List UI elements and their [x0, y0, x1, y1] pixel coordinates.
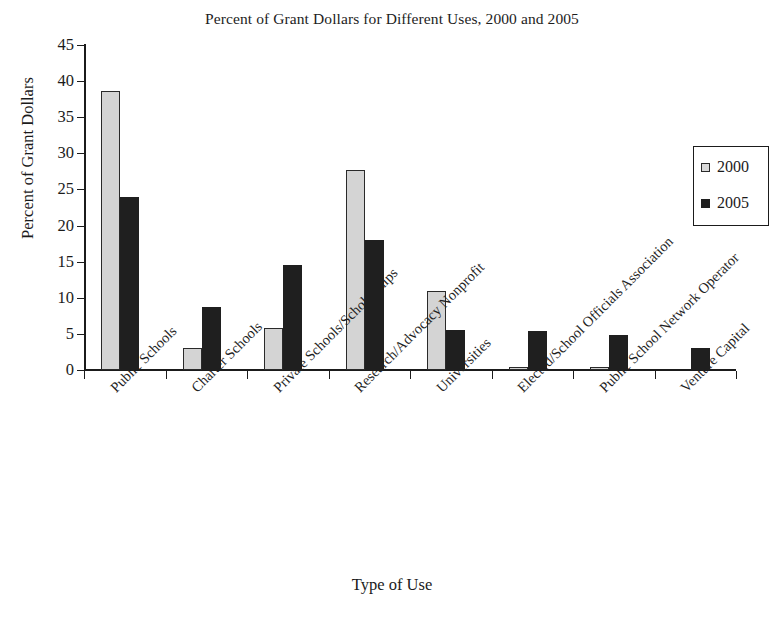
y-axis-tick [77, 81, 84, 82]
y-axis-tick [77, 370, 84, 371]
y-axis-tick-label: 15 [34, 254, 74, 271]
bar-2000-3[interactable] [346, 170, 365, 370]
y-axis-tick [77, 334, 84, 335]
y-axis-tick [77, 153, 84, 154]
y-axis-title: Percent of Grant Dollars [18, 48, 38, 268]
y-axis-tick [77, 298, 84, 299]
y-axis-tick-label: 25 [34, 181, 74, 198]
bar-2000-0[interactable] [101, 91, 120, 370]
bar-2000-2[interactable] [264, 328, 283, 370]
x-axis-tick [410, 371, 411, 379]
x-axis-title: Type of Use [0, 575, 784, 595]
y-axis-tick-label: 45 [34, 37, 74, 54]
x-axis-tick [573, 371, 574, 379]
y-axis-tick-label: 40 [34, 73, 74, 90]
y-axis-tick-label: 30 [34, 145, 74, 162]
y-axis-tick-label: 35 [34, 109, 74, 126]
x-axis-tick [247, 371, 248, 379]
bar-2000-6[interactable] [590, 367, 609, 370]
x-axis-tick [655, 371, 656, 379]
legend: 2000 2005 [693, 146, 769, 226]
legend-label: 2000 [717, 159, 749, 175]
legend-item-2000[interactable]: 2000 [701, 159, 749, 175]
bar-2005-0[interactable] [120, 197, 139, 370]
y-axis-tick-label: 0 [34, 362, 74, 379]
y-axis-tick [77, 262, 84, 263]
legend-label: 2005 [717, 195, 749, 211]
y-axis-tick [77, 226, 84, 227]
dark-square-swatch-icon [701, 199, 710, 208]
y-axis-tick-label: 20 [34, 218, 74, 235]
y-axis-tick [77, 117, 84, 118]
x-axis-tick [736, 371, 737, 379]
x-axis-tick [84, 371, 85, 379]
legend-item-2005[interactable]: 2005 [701, 195, 749, 211]
bar-chart-figure: Percent of Grant Dollars for Different U… [0, 0, 784, 630]
bars-layer [86, 45, 736, 370]
bar-2000-1[interactable] [183, 348, 202, 370]
light-square-swatch-icon [701, 163, 710, 172]
x-axis-tick [166, 371, 167, 379]
bar-2000-5[interactable] [509, 367, 528, 370]
chart-title: Percent of Grant Dollars for Different U… [0, 10, 784, 28]
x-axis-tick [329, 371, 330, 379]
x-axis-tick [492, 371, 493, 379]
y-axis-tick [77, 189, 84, 190]
y-axis-tick [77, 45, 84, 46]
y-axis-tick-label: 10 [34, 290, 74, 307]
y-axis-tick-label: 5 [34, 326, 74, 343]
